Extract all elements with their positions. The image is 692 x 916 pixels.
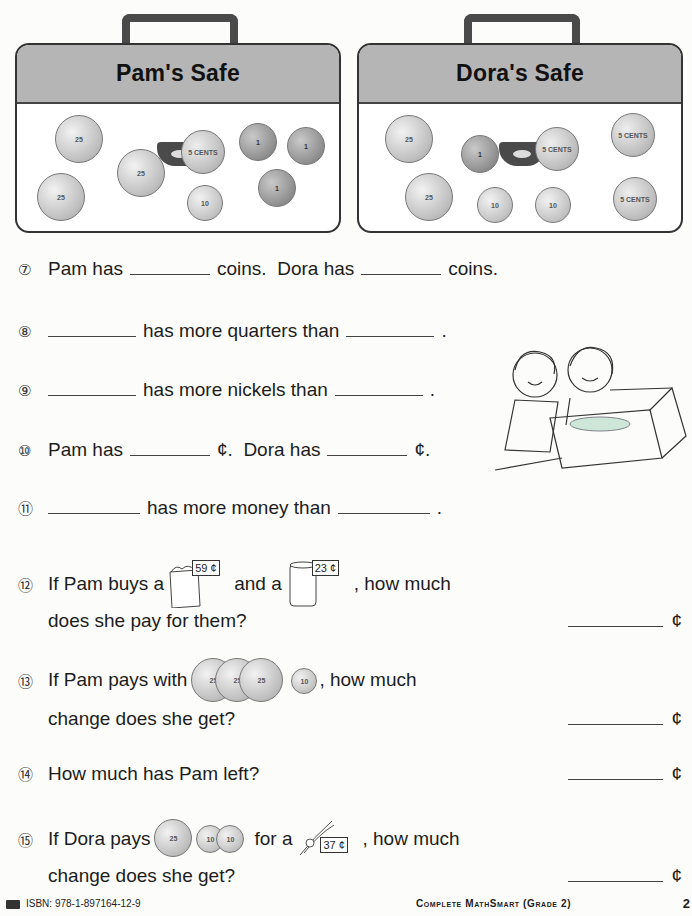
question-text: . <box>441 320 446 342</box>
answer-blank-12[interactable] <box>568 625 663 627</box>
answer-blank-more-nickels[interactable] <box>48 394 136 396</box>
question-text: change does she get? <box>48 865 235 887</box>
quarter-coin: 25 <box>117 149 165 197</box>
question-10: ⑩ Pam has ¢. Dora has ¢. <box>18 439 430 461</box>
question-text: does she pay for them? <box>48 610 247 632</box>
doras-safe: Dora's Safe 25 25 1 5 CENTS 5 CENTS 5 CE… <box>357 0 683 236</box>
page-footer: ISBN: 978-1-897164-12-9 Complete MathSma… <box>0 898 692 916</box>
safe-title: Pam's Safe <box>116 60 240 87</box>
dime-coin: 10 <box>535 187 571 223</box>
answer-blank-pam-cents[interactable] <box>130 454 210 456</box>
answer-blank-fewer-nickels[interactable] <box>335 394 423 396</box>
page-number: 2 <box>683 896 690 911</box>
answer-blank-more-money[interactable] <box>48 512 140 514</box>
question-number: ⑬ <box>18 670 48 691</box>
dime-coin: 10 <box>477 187 513 223</box>
answer-blank-14[interactable] <box>568 778 663 780</box>
question-text: has more money than <box>147 497 331 519</box>
price-tag: 59 ¢ <box>192 560 219 576</box>
book-title: Complete MathSmart (Grade 2) <box>416 898 571 909</box>
dime-coin: 10 <box>291 668 317 694</box>
safe-box: Pam's Safe 25 25 25 5 CENTS 10 1 1 1 <box>15 43 341 233</box>
question-text: change does she get? <box>48 708 235 730</box>
nickel-coin: 5 CENTS <box>613 177 657 221</box>
cent-sign: ¢ <box>671 763 682 785</box>
question-7: ⑦ Pam has coins. Dora has coins. <box>18 258 498 280</box>
question-15: ⑮ If Dora pays 25 10 10 for a 37 ¢ , how… <box>18 817 460 861</box>
question-text: and a <box>234 573 282 595</box>
penny-coin: 1 <box>287 127 325 165</box>
dime-coin: 10 <box>187 185 223 221</box>
coins-group-icon: 25 25 25 10 <box>191 658 315 702</box>
question-number: ⑮ <box>18 829 48 850</box>
question-14: ⑭ How much has Pam left? <box>18 763 259 785</box>
question-text: . <box>430 379 435 401</box>
answer-blank-pam-coins[interactable] <box>130 273 210 275</box>
cent-sign: ¢ <box>671 865 682 887</box>
question-text: If Pam buys a <box>48 573 164 595</box>
question-number: ⑩ <box>18 442 48 460</box>
answer-blank-13[interactable] <box>568 723 663 725</box>
question-15-line2: change does she get? <box>48 865 235 887</box>
coins-group-icon: 25 10 10 <box>154 819 250 859</box>
pams-safe: Pam's Safe 25 25 25 5 CENTS 10 1 1 1 <box>15 0 341 236</box>
safe-header: Pam's Safe <box>17 45 339 104</box>
quarter-coin: 25 <box>55 115 103 163</box>
question-12: ⑫ If Pam buys a 59 ¢ and a 23 ¢ , how mu… <box>18 558 451 610</box>
quarter-coin: 25 <box>154 819 192 857</box>
penny-coin: 1 <box>239 123 277 161</box>
question-11: ⑪ has more money than . <box>18 497 442 519</box>
cent-sign: ¢ <box>671 610 682 632</box>
question-text: ¢. <box>414 439 430 461</box>
question-text: . <box>437 497 442 519</box>
safe-box: Dora's Safe 25 25 1 5 CENTS 5 CENTS 5 CE… <box>357 43 683 233</box>
question-number: ⑫ <box>18 574 48 595</box>
answer-13: ¢ <box>561 708 682 730</box>
question-text: coins. <box>448 258 498 280</box>
question-number: ⑭ <box>18 763 48 784</box>
answer-12: ¢ <box>561 610 682 632</box>
cent-sign: ¢ <box>671 708 682 730</box>
answer-blank-dora-coins[interactable] <box>361 273 441 275</box>
nickel-coin: 5 CENTS <box>611 113 655 157</box>
question-text: If Dora pays <box>48 828 150 850</box>
answer-blank-fewer-quarters[interactable] <box>346 335 434 337</box>
question-12-line2: does she pay for them? <box>48 610 247 632</box>
question-13: ⑬ If Pam pays with 25 25 25 10 , how muc… <box>18 658 417 702</box>
kids-treasure-chest-illustration <box>490 340 690 490</box>
answer-blank-dora-cents[interactable] <box>327 454 407 456</box>
question-13-line2: change does she get? <box>48 708 235 730</box>
answer-blank-15[interactable] <box>568 880 663 882</box>
nickel-coin: 5 CENTS <box>535 127 579 171</box>
answer-blank-more-quarters[interactable] <box>48 335 136 337</box>
question-number: ⑦ <box>18 261 48 279</box>
price-tag: 37 ¢ <box>320 837 347 853</box>
question-text: , how much <box>354 573 451 595</box>
question-8: ⑧ has more quarters than . <box>18 320 447 342</box>
question-9: ⑨ has more nickels than . <box>18 379 435 401</box>
book-icon <box>6 900 20 909</box>
question-text: Pam has <box>48 439 123 461</box>
price-tag: 23 ¢ <box>312 560 339 576</box>
penny-coin: 1 <box>258 169 296 207</box>
question-text: has more quarters than <box>143 320 339 342</box>
question-text: coins. Dora has <box>217 258 354 280</box>
answer-blank-less-money[interactable] <box>338 512 430 514</box>
question-text: If Pam pays with <box>48 669 187 691</box>
question-number: ⑪ <box>18 497 48 518</box>
quarter-coin: 25 <box>405 173 453 221</box>
question-text: Pam has <box>48 258 123 280</box>
isbn: ISBN: 978-1-897164-12-9 <box>26 898 141 909</box>
answer-14: ¢ <box>561 763 682 785</box>
dime-coin: 10 <box>216 825 244 853</box>
quarter-coin: 25 <box>37 173 85 221</box>
quarter-coin: 25 <box>385 115 433 163</box>
question-number: ⑧ <box>18 323 48 341</box>
soda-can-icon: 23 ¢ <box>286 558 350 610</box>
question-text: ¢. Dora has <box>217 439 321 461</box>
safe-title: Dora's Safe <box>456 60 584 87</box>
safe-header: Dora's Safe <box>359 45 681 104</box>
necklace-icon: 37 ¢ <box>296 817 358 861</box>
question-text: , how much <box>362 828 459 850</box>
question-text: has more nickels than <box>143 379 328 401</box>
